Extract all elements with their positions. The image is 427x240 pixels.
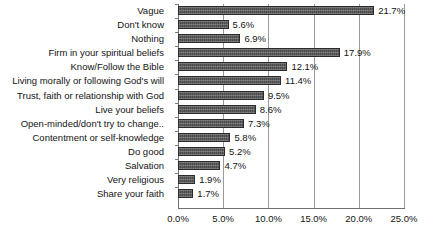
bar-row: 17.9% — [178, 46, 404, 60]
bar — [178, 175, 195, 184]
y-axis-tick — [175, 74, 178, 75]
category-label: Very religious — [0, 173, 170, 187]
bar-value-label: 6.9% — [244, 33, 266, 45]
bar-value-label: 5.2% — [229, 146, 251, 158]
y-axis-tick — [175, 187, 178, 188]
y-axis-tick — [175, 103, 178, 104]
bar-value-label: 8.6% — [260, 104, 282, 116]
bar — [178, 147, 225, 156]
bar-row: 21.7% — [178, 4, 404, 18]
bar-value-label: 4.7% — [224, 160, 246, 172]
bar-value-label: 1.7% — [197, 188, 219, 200]
bar-value-label: 9.5% — [268, 90, 290, 102]
x-tick-label: 0.0% — [167, 212, 189, 225]
category-label: Share your faith — [0, 187, 170, 201]
plot-area: 21.7%5.6%6.9%17.9%12.1%11.4%9.5%8.6%7.3%… — [178, 4, 404, 208]
category-label: Do good — [0, 145, 170, 159]
category-label: Nothing — [0, 32, 170, 46]
bar — [178, 76, 281, 85]
bar-row: 7.3% — [178, 117, 404, 131]
x-axis-tick-labels: 0.0%5.0%10.0%15.0%20.0%25.0% — [178, 212, 404, 228]
y-axis-tick — [175, 32, 178, 33]
category-label: Know/Follow the Bible — [0, 60, 170, 74]
category-label: Vague — [0, 4, 170, 18]
bar-value-label: 5.8% — [234, 132, 256, 144]
bar-chart: VagueDon't knowNothingFirm in your spiri… — [0, 0, 427, 240]
bar-row: 11.4% — [178, 74, 404, 88]
bar — [178, 62, 287, 71]
bar-row: 9.5% — [178, 89, 404, 103]
category-label: Salvation — [0, 159, 170, 173]
bar — [178, 189, 193, 198]
bar-value-label: 7.3% — [248, 118, 270, 130]
bar-value-label: 17.9% — [344, 47, 371, 59]
bar-value-label: 12.1% — [291, 61, 318, 73]
bar — [178, 20, 229, 29]
bar — [178, 6, 374, 15]
x-axis-line — [178, 208, 405, 209]
bar — [178, 105, 256, 114]
x-tick-label: 25.0% — [391, 212, 418, 225]
bar-value-label: 5.6% — [233, 19, 255, 31]
y-axis-tick — [175, 173, 178, 174]
bar-series: 21.7%5.6%6.9%17.9%12.1%11.4%9.5%8.6%7.3%… — [178, 4, 404, 208]
x-tick-label: 20.0% — [345, 212, 372, 225]
bar-row: 1.7% — [178, 187, 404, 201]
bar-row: 1.9% — [178, 173, 404, 187]
bar-row: 6.9% — [178, 32, 404, 46]
bar — [178, 48, 340, 57]
bar-row: 4.7% — [178, 159, 404, 173]
bar-value-label: 1.9% — [199, 174, 221, 186]
bar — [178, 133, 230, 142]
gridline — [404, 4, 405, 208]
category-label: Living morally or following God's will — [0, 74, 170, 88]
bar — [178, 34, 240, 43]
bar-row: 12.1% — [178, 60, 404, 74]
bar-value-label: 21.7% — [378, 5, 405, 17]
x-tick-label: 15.0% — [300, 212, 327, 225]
bar-row: 8.6% — [178, 103, 404, 117]
bar-row: 5.2% — [178, 145, 404, 159]
y-axis-tick — [175, 117, 178, 118]
category-label: Don't know — [0, 18, 170, 32]
x-tick-label: 10.0% — [255, 212, 282, 225]
bar — [178, 161, 220, 170]
bar — [178, 91, 264, 100]
y-axis-tick — [175, 89, 178, 90]
y-axis-tick — [175, 145, 178, 146]
bar-value-label: 11.4% — [285, 75, 311, 87]
category-label: Trust, faith or relationship with God — [0, 89, 170, 103]
y-axis-tick — [175, 4, 178, 5]
y-axis-tick — [175, 18, 178, 19]
bar-row: 5.6% — [178, 18, 404, 32]
y-axis-tick — [175, 60, 178, 61]
bar — [178, 119, 244, 128]
x-tick-label: 5.0% — [212, 212, 234, 225]
category-label: Firm in your spiritual beliefs — [0, 46, 170, 60]
category-axis-labels: VagueDon't knowNothingFirm in your spiri… — [0, 4, 170, 201]
y-axis-tick — [175, 46, 178, 47]
y-axis-tick — [175, 159, 178, 160]
category-label: Contentment or self-knowledge — [0, 131, 170, 145]
bar-row: 5.8% — [178, 131, 404, 145]
category-label: Live your beliefs — [0, 103, 170, 117]
y-axis-tick — [175, 131, 178, 132]
category-label: Open-minded/don't try to change.. — [0, 117, 170, 131]
